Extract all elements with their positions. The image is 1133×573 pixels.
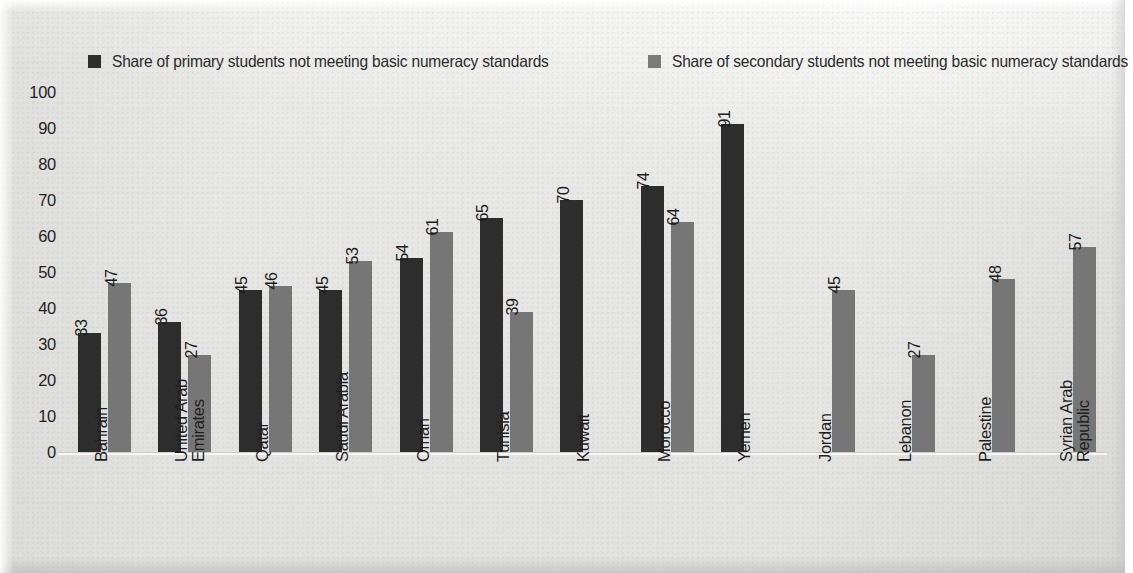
x-axis-tick-label-line: Oman — [414, 418, 432, 462]
bar-primary[interactable]: 91 — [721, 124, 744, 452]
bar-value-label: 39 — [505, 298, 521, 315]
bar-slot-secondary: 61 — [430, 92, 453, 452]
page-edge-top — [0, 0, 1125, 12]
x-axis-tick-label-line: Qatar — [253, 422, 271, 462]
x-axis-tick-label-line: United Arab — [172, 379, 190, 462]
bar-value-label: 74 — [636, 172, 652, 189]
bar-value-label: 46 — [264, 273, 280, 290]
bar-secondary[interactable]: 27 — [912, 355, 935, 452]
y-axis-tick-label: 10 — [38, 408, 56, 425]
legend-label-secondary: Share of secondary students not meeting … — [672, 52, 1128, 71]
x-axis-tick-label: Qatar — [254, 422, 271, 462]
x-axis-cell: Morocco — [625, 458, 705, 570]
x-axis-cell: Kuwait — [544, 458, 624, 570]
x-axis-cell: Jordan — [786, 458, 866, 570]
x-axis-cell: Oman — [384, 458, 464, 570]
bar-group: 91 — [705, 92, 785, 452]
x-axis-tick-label: Syrian ArabRepublic — [1058, 380, 1092, 462]
bar-slot-secondary — [751, 92, 774, 452]
bar-slot-primary: 65 — [480, 92, 503, 452]
bar-secondary[interactable]: 48 — [992, 279, 1015, 452]
x-axis-tick-label: Bahrain — [93, 407, 110, 462]
x-axis-tick-label: Morocco — [656, 401, 673, 462]
bar-value-label: 91 — [717, 111, 733, 128]
x-axis-tick-label: Jordan — [817, 413, 834, 462]
legend-label-primary: Share of primary students not meeting ba… — [112, 52, 549, 71]
bar-slot-primary: 33 — [78, 92, 101, 452]
x-axis-cell: Bahrain — [62, 458, 142, 570]
bar-secondary[interactable]: 39 — [510, 312, 533, 452]
legend-swatch-primary-icon — [88, 55, 101, 68]
legend-item-secondary: Share of secondary students not meeting … — [648, 52, 1133, 71]
x-axis-cell: Saudi Arabia — [303, 458, 383, 570]
x-axis-tick-label-line: Republic — [1075, 380, 1092, 462]
x-axis-tick-label-line: Kuwait — [574, 414, 592, 462]
bar-group: 27 — [866, 92, 946, 452]
bar-slot-secondary: 53 — [349, 92, 372, 452]
y-axis-tick-label: 30 — [38, 336, 56, 353]
bar-value-label: 36 — [154, 309, 170, 326]
bar-group: 70 — [544, 92, 624, 452]
x-axis-tick-label-line: Yemen — [735, 413, 753, 462]
y-axis-tick-label: 60 — [38, 228, 56, 245]
y-axis-tick-label: 0 — [47, 444, 56, 461]
x-axis-cell: Qatar — [223, 458, 303, 570]
bar-secondary[interactable]: 53 — [349, 261, 372, 452]
bar-value-label: 70 — [556, 187, 572, 204]
bar-slot-secondary: 47 — [108, 92, 131, 452]
x-axis-tick-label-line: Saudi Arabia — [333, 372, 351, 462]
page-edge-right — [1111, 0, 1125, 573]
plot-area: 3347362745464553546165397074649145274857 — [62, 92, 1107, 452]
bar-slot-secondary: 48 — [992, 92, 1015, 452]
y-axis-tick-label: 100 — [29, 84, 56, 101]
y-axis-tick-label: 80 — [38, 156, 56, 173]
bar-secondary[interactable]: 64 — [671, 222, 694, 452]
bar-secondary[interactable]: 61 — [430, 232, 453, 452]
bar-value-label: 33 — [74, 320, 90, 337]
bar-value-label: 61 — [425, 219, 441, 236]
x-axis-tick-label: Yemen — [736, 413, 753, 462]
bar-group: 45 — [786, 92, 866, 452]
x-axis-tick-label-line: Emirates — [191, 379, 208, 462]
x-axis-cell: Syrian ArabRepublic — [1027, 458, 1107, 570]
x-axis-tick-label: Palestine — [977, 397, 994, 462]
x-axis-cell: United ArabEmirates — [142, 458, 222, 570]
bar-value-label: 53 — [345, 248, 361, 265]
x-axis-cell: Tunisia — [464, 458, 544, 570]
bar-value-label: 27 — [907, 341, 923, 358]
y-axis-tick-label: 90 — [38, 120, 56, 137]
y-axis-tick-label: 40 — [38, 300, 56, 317]
x-axis-tick-label: United ArabEmirates — [173, 379, 207, 462]
bar-slot-secondary: 27 — [912, 92, 935, 452]
x-axis-tick-label-line: Tunisia — [494, 412, 512, 462]
bar-value-label: 45 — [827, 277, 843, 294]
bar-secondary[interactable]: 47 — [108, 283, 131, 452]
bar-slot-secondary: 46 — [269, 92, 292, 452]
bar-value-label: 57 — [1068, 233, 1084, 250]
bar-group: 7464 — [625, 92, 705, 452]
x-axis-cell: Palestine — [946, 458, 1026, 570]
x-axis-tick-label: Oman — [415, 418, 432, 462]
bar-group: 5461 — [384, 92, 464, 452]
legend-item-primary: Share of primary students not meeting ba… — [88, 52, 577, 71]
page-edge-left — [0, 0, 14, 573]
bar-value-label: 47 — [104, 269, 120, 286]
x-axis-tick-label-line: Syrian Arab — [1057, 380, 1075, 462]
x-axis-tick-label: Tunisia — [495, 412, 512, 462]
bar-secondary[interactable]: 46 — [269, 286, 292, 452]
x-axis-tick-label-line: Palestine — [976, 397, 994, 462]
bar-slot-primary — [882, 92, 905, 452]
legend-swatch-secondary-icon — [648, 55, 661, 68]
bar-group: 4546 — [223, 92, 303, 452]
x-axis-tick-label-line: Jordan — [816, 413, 834, 462]
y-axis: 1009080706050403020100 — [14, 92, 56, 452]
bar-slot-primary: 74 — [641, 92, 664, 452]
x-axis-cell: Yemen — [705, 458, 785, 570]
y-axis-tick-label: 50 — [38, 264, 56, 281]
bar-group: 3347 — [62, 92, 142, 452]
bar-slot-primary: 70 — [560, 92, 583, 452]
bar-slot-primary: 91 — [721, 92, 744, 452]
bar-secondary[interactable]: 45 — [832, 290, 855, 452]
y-axis-tick-label: 70 — [38, 192, 56, 209]
